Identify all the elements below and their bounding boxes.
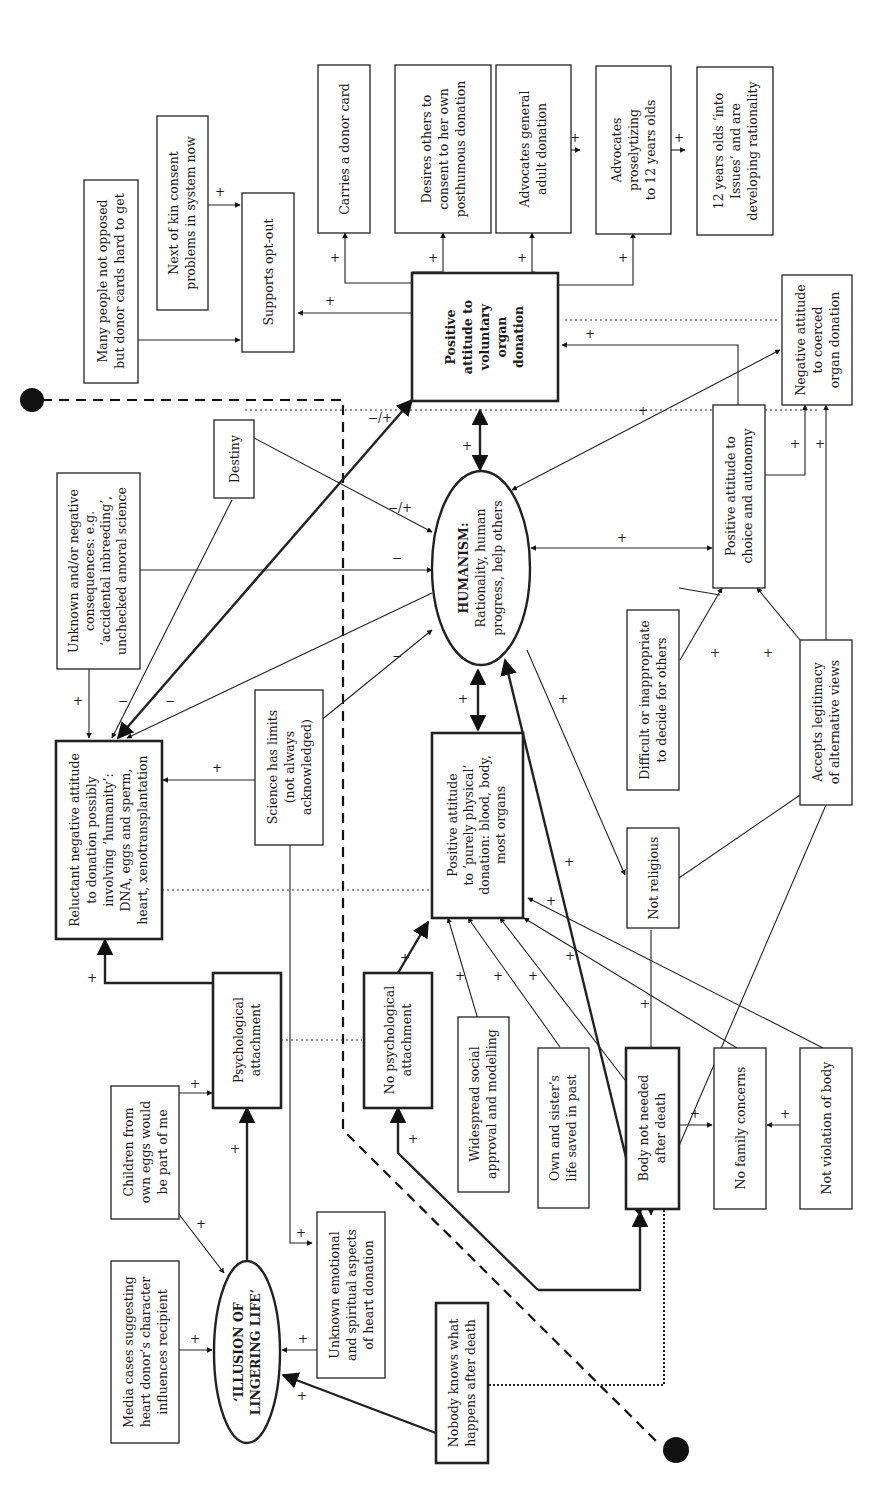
svg-text:choice and autonomy: choice and autonomy [740, 428, 755, 564]
svg-text:+: + [790, 437, 800, 451]
svg-text:donation: donation [511, 306, 526, 368]
svg-text:organ donation: organ donation [827, 292, 842, 389]
node-advocates-adult-donation: Advocates general adult donation [496, 65, 571, 233]
svg-text:+: + [298, 1332, 308, 1346]
svg-text:No family concerns: No family concerns [733, 1067, 748, 1190]
svg-text:+: + [458, 692, 468, 706]
svg-text:+: + [674, 131, 684, 145]
svg-text:consequences: e.g.: consequences: e.g. [82, 511, 97, 631]
svg-text:attachment: attachment [248, 1004, 263, 1076]
svg-text:and spiritual aspects: and spiritual aspects [344, 1229, 359, 1361]
node-coerced-donation: Negative attitude to coerced organ donat… [782, 275, 852, 405]
svg-text:+: + [815, 437, 825, 451]
svg-text:+: + [296, 1226, 306, 1240]
svg-text:+: + [297, 1389, 307, 1403]
svg-text:‘ILLUSION OF: ‘ILLUSION OF [231, 1302, 246, 1401]
svg-text:(not always: (not always [282, 731, 297, 804]
boundary-end-dot [663, 1437, 689, 1463]
node-voluntary-donation: Positive attitude to voluntary organ don… [412, 273, 558, 401]
concept-map-diagram: + + + + + + + + + + + + + + + + + −/+ −/… [0, 0, 883, 1509]
svg-text:+: + [325, 294, 335, 308]
node-many-people: Many people not opposed but donor cards … [84, 180, 138, 383]
svg-text:+: + [617, 531, 627, 545]
svg-text:−: − [392, 551, 402, 565]
node-advocates-proselytizing: Advocates proselytizing to 12 years olds [596, 66, 671, 234]
svg-text:donation: blood, body,: donation: blood, body, [477, 755, 492, 895]
svg-text:to 12 years olds: to 12 years olds [643, 100, 658, 201]
svg-text:developing rationality: developing rationality [745, 81, 760, 221]
node-no-psychological-attachment: No psychological attachment [364, 973, 432, 1108]
node-humanism: HUMANISM: Rationality, human progress, h… [432, 471, 530, 665]
svg-text:+: + [546, 894, 556, 908]
svg-text:+: + [190, 1077, 200, 1091]
svg-text:proselytizing: proselytizing [626, 109, 641, 191]
svg-text:Nobody knows what: Nobody knows what [446, 1319, 461, 1448]
node-unknown-negative-consequences: Unknown and/or negative consequences: e.… [57, 473, 140, 669]
node-own-sister-life-saved: Own and sister’s life saved in past [538, 1048, 589, 1208]
svg-text:approval and modelling: approval and modelling [484, 1029, 499, 1179]
node-accepts-legitimacy: Accepts legitimacy of alternative views [800, 640, 852, 805]
svg-text:Positive attitude to: Positive attitude to [723, 436, 738, 556]
svg-text:Negative attitude: Negative attitude [793, 284, 808, 395]
node-body-not-needed: Body not needed after death [626, 1048, 679, 1209]
svg-text:+: + [493, 969, 503, 983]
svg-text:Destiny: Destiny [227, 434, 242, 483]
svg-text:‘accidental inbreeding’,: ‘accidental inbreeding’, [98, 496, 113, 646]
svg-text:−/+: −/+ [368, 411, 392, 425]
svg-text:Children from: Children from [121, 1107, 136, 1196]
node-widespread-approval: Widespread social approval and modelling [458, 1017, 509, 1192]
svg-text:+: + [517, 251, 527, 265]
svg-text:Positive attitude: Positive attitude [445, 773, 460, 876]
svg-text:problems in system now: problems in system now [183, 136, 198, 290]
node-next-of-kin: Next of kin consent problems in system n… [157, 116, 208, 310]
svg-text:+: + [640, 997, 650, 1011]
svg-text:Unknown emotional: Unknown emotional [327, 1231, 342, 1358]
svg-text:Psychological: Psychological [231, 997, 246, 1083]
svg-text:−: − [118, 694, 128, 708]
svg-text:Body not needed: Body not needed [636, 1075, 651, 1182]
svg-text:+: + [710, 646, 720, 660]
svg-text:to decide for others: to decide for others [654, 638, 669, 763]
svg-text:+: + [690, 1107, 700, 1121]
svg-text:Many people not opposed: Many people not opposed [95, 199, 110, 362]
svg-text:posthumous donation: posthumous donation [453, 81, 468, 218]
svg-text:Carries a donor card: Carries a donor card [337, 83, 352, 215]
svg-text:Issues’ and are: Issues’ and are [728, 103, 743, 199]
svg-text:+: + [780, 1107, 790, 1121]
svg-text:Not religious: Not religious [646, 837, 661, 920]
svg-text:+: + [528, 969, 538, 983]
node-purely-physical-donation: Positive attitude to ‘purely physical’ d… [432, 733, 523, 918]
node-choice-autonomy: Positive attitude to choice and autonomy [713, 405, 765, 588]
svg-text:own eggs would: own eggs would [138, 1101, 153, 1203]
svg-text:Widespread social: Widespread social [467, 1046, 482, 1162]
node-desires-others: Desires others to consent to her own pos… [395, 65, 491, 233]
boundary-start-dot [20, 388, 44, 412]
svg-text:heart, xenotransplantation: heart, xenotransplantation [135, 755, 150, 924]
node-supports-opt-out: Supports opt-out [242, 193, 294, 352]
svg-text:+: + [462, 439, 472, 453]
svg-text:Desires others to: Desires others to [419, 95, 434, 204]
svg-text:+: + [73, 694, 83, 708]
svg-text:voluntary: voluntary [477, 303, 492, 371]
svg-text:Advocates general: Advocates general [517, 90, 532, 208]
svg-text:+: + [190, 1332, 200, 1346]
svg-text:Own and sister’s: Own and sister’s [547, 1075, 562, 1181]
svg-text:attitude to: attitude to [460, 300, 475, 374]
svg-text:influences recipient: influences recipient [155, 1289, 170, 1415]
svg-text:of heart donation: of heart donation [361, 1240, 376, 1350]
svg-text:+: + [565, 949, 575, 963]
node-carries-donor-card: Carries a donor card [318, 65, 370, 233]
node-reluctant-negative-attitude: Reluctant negative attitude to donation … [56, 741, 162, 939]
svg-text:+: + [428, 251, 438, 265]
svg-text:LINGERING LIFE’: LINGERING LIFE’ [248, 1289, 263, 1415]
node-no-family-concerns: No family concerns [714, 1048, 766, 1209]
svg-text:attachment: attachment [399, 1004, 414, 1076]
svg-text:+: + [455, 969, 465, 983]
node-twelve-year-olds: 12 years olds ‘into Issues’ and are deve… [697, 67, 773, 235]
svg-text:+: + [400, 951, 410, 965]
svg-text:+: + [408, 1132, 418, 1146]
svg-text:+: + [763, 646, 773, 660]
svg-text:organ: organ [494, 317, 509, 358]
svg-text:Science has limits: Science has limits [265, 710, 280, 825]
svg-text:to coerced: to coerced [810, 307, 825, 374]
